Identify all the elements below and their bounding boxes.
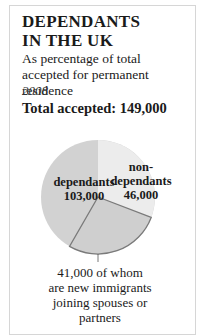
label-non-dependants-value: 46,000 bbox=[106, 188, 176, 202]
annotation-note: 41,000 of whom are new immigrants joinin… bbox=[40, 265, 160, 325]
note-line-1: 41,000 of whom bbox=[40, 265, 160, 280]
label-non-dependants-line-2: dependants bbox=[106, 174, 176, 188]
note-line-4: partners bbox=[40, 310, 160, 325]
label-non-dependants: non- dependants 46,000 bbox=[106, 160, 176, 202]
note-line-3: joining spouses or bbox=[40, 295, 160, 310]
note-line-2: are new immigrants bbox=[40, 280, 160, 295]
label-non-dependants-line-1: non- bbox=[106, 160, 176, 174]
